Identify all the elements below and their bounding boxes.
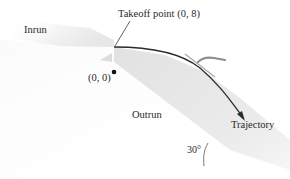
origin-label: (0, 0) (88, 73, 111, 84)
takeoff-point-label: Takeoff point (0, 8) (118, 9, 200, 20)
origin-point-marker (112, 70, 117, 75)
ski-jump-diagram: Inrun Takeoff point (0, 8) (0, 0) Outrun… (0, 0, 290, 179)
trajectory-label: Trajectory (231, 120, 274, 131)
outrun-label: Outrun (132, 110, 162, 121)
slope-angle-label: 30° (187, 145, 201, 155)
inrun-label: Inrun (24, 25, 47, 36)
takeoff-leader-line (115, 21, 130, 46)
